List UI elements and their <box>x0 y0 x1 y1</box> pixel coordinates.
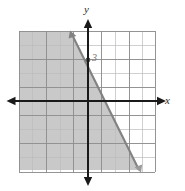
graph-canvas <box>0 0 185 191</box>
coordinate-plane-figure: y x 3 <box>0 0 185 191</box>
y-axis-arrow-up <box>84 19 92 28</box>
x-axis-label: x <box>165 95 170 106</box>
y-intercept-label: 3 <box>92 53 97 63</box>
y-axis-label: y <box>84 4 89 15</box>
y-axis-arrow-down <box>84 177 92 186</box>
x-axis-arrow-left <box>7 97 16 105</box>
